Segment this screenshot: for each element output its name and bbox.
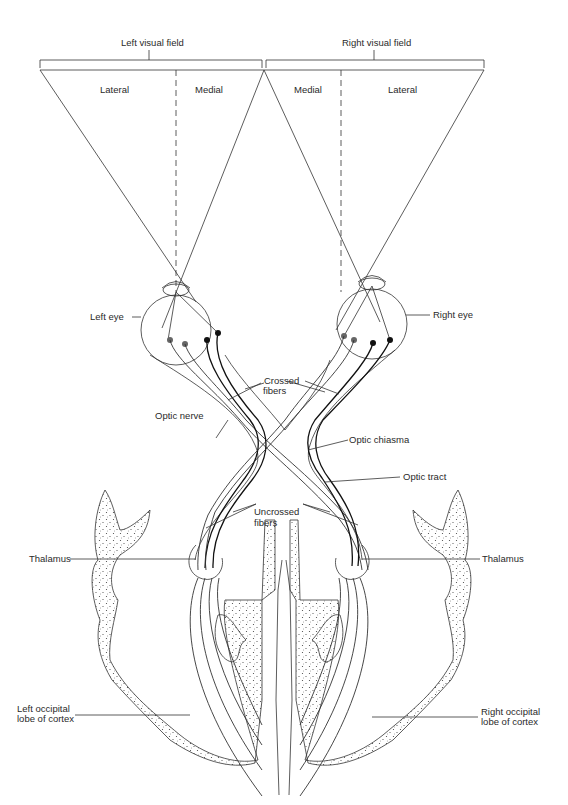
label-optic-nerve: Optic nerve <box>155 410 204 421</box>
field-brackets <box>40 50 484 68</box>
label-thalamus-right: Thalamus <box>482 553 524 564</box>
label-right-medial: Medial <box>294 84 322 95</box>
right-hemisphere-cortex <box>290 490 471 765</box>
label-uncrossed-fibers-2: fibers <box>254 517 277 528</box>
label-left-eye: Left eye <box>90 311 124 322</box>
label-thalamus-left: Thalamus <box>29 553 71 564</box>
left-hemisphere-cortex <box>92 490 275 765</box>
label-right-lateral: Lateral <box>388 84 417 95</box>
label-uncrossed-fibers-1: Uncrossed <box>254 506 299 517</box>
label-left-medial: Medial <box>195 84 223 95</box>
label-right-eye: Right eye <box>433 309 473 320</box>
label-left-lateral: Lateral <box>100 84 129 95</box>
label-optic-chiasma: Optic chiasma <box>349 434 409 445</box>
label-left-occipital-2: lobe of cortex <box>17 713 74 724</box>
visual-field-cones <box>40 70 484 330</box>
label-crossed-fibers-2: fibers <box>263 385 286 396</box>
label-right-occipital-2: lobe of cortex <box>481 716 538 727</box>
left-eye-shape <box>141 282 221 366</box>
lateral-geniculate-nuclei <box>189 545 369 579</box>
label-optic-tract: Optic tract <box>403 471 446 482</box>
label-left-visual-field: Left visual field <box>121 37 184 48</box>
label-right-visual-field: Right visual field <box>342 37 411 48</box>
visual-pathway-diagram <box>0 0 568 805</box>
midline-fissure <box>276 560 292 795</box>
